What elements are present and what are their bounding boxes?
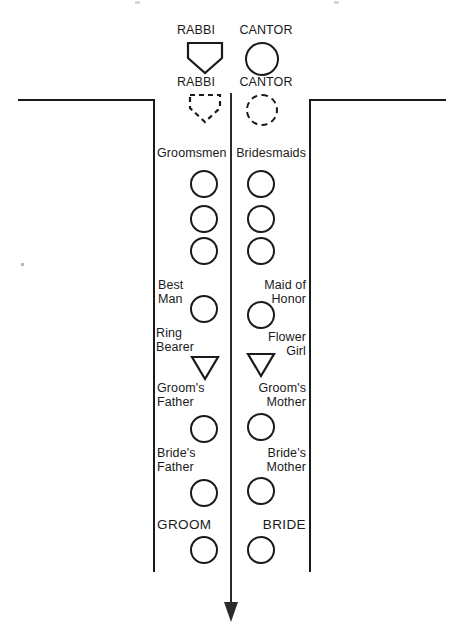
groom-position[interactable]	[190, 536, 218, 564]
bridesmaid-position-3[interactable]	[247, 237, 275, 265]
ring-bearer-label: Ring Bearer	[156, 326, 218, 354]
brides-father-label: Bride's Father	[157, 446, 223, 474]
left-seating-block-inner-edge	[153, 99, 155, 572]
rabbi-position-marker-dashed[interactable]	[188, 93, 222, 124]
grooms-father-label: Groom's Father	[157, 381, 223, 409]
groomsmen-header: Groomsmen	[157, 146, 229, 160]
officiant-label-cantor-dashed: CANTOR	[228, 75, 304, 89]
right-seating-block-top-edge	[309, 99, 446, 101]
brides-mother-label: Bride's Mother	[240, 446, 306, 474]
bridesmaid-position-1[interactable]	[247, 170, 275, 198]
left-seating-block-top-edge	[18, 99, 155, 101]
rabbi-position-marker-solid[interactable]	[186, 41, 224, 75]
maid-of-honor-position[interactable]	[247, 301, 275, 329]
grooms-mother-label: Groom's Mother	[240, 381, 306, 409]
bride-position[interactable]	[247, 536, 275, 564]
scan-speck	[334, 1, 339, 4]
scan-speck	[21, 263, 24, 266]
groomsman-position-3[interactable]	[190, 237, 218, 265]
groom-label: GROOM	[157, 518, 229, 532]
cantor-position-marker-solid[interactable]	[245, 42, 279, 76]
officiant-label-cantor-solid: CANTOR	[228, 23, 304, 37]
officiant-label-rabbi-dashed: RABBI	[160, 75, 232, 89]
groomsman-position-1[interactable]	[190, 170, 218, 198]
grooms-mother-position[interactable]	[247, 413, 275, 441]
bridesmaids-header: Bridesmaids	[234, 146, 306, 160]
flower-girl-position[interactable]	[246, 352, 276, 378]
ring-bearer-position[interactable]	[190, 355, 220, 381]
bride-label: BRIDE	[236, 518, 306, 532]
groomsman-position-2[interactable]	[190, 205, 218, 233]
scan-speck	[135, 1, 140, 4]
bridesmaid-position-2[interactable]	[247, 205, 275, 233]
right-seating-block-inner-edge	[309, 99, 311, 572]
down-arrow-icon	[224, 602, 238, 622]
center-aisle-line	[230, 93, 232, 608]
grooms-father-position[interactable]	[190, 415, 218, 443]
brides-father-position[interactable]	[190, 479, 218, 507]
best-man-position[interactable]	[190, 295, 218, 323]
officiant-label-rabbi-solid: RABBI	[160, 23, 232, 37]
ceremony-diagram-canvas: RABBI CANTOR RABBI CANTOR Groomsmen Brid…	[0, 0, 464, 631]
cantor-position-marker-dashed[interactable]	[246, 94, 278, 126]
brides-mother-position[interactable]	[247, 477, 275, 505]
